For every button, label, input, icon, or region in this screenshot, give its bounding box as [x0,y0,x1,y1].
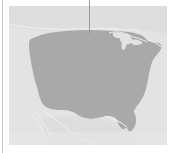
callout-leader-line [89,0,90,34]
map-thumbnail-widget [0,0,169,153]
map-panel[interactable] [9,6,167,145]
ocean-south [9,132,167,145]
left-vertical-rule [2,0,3,153]
us-map-graphic[interactable] [9,6,167,145]
